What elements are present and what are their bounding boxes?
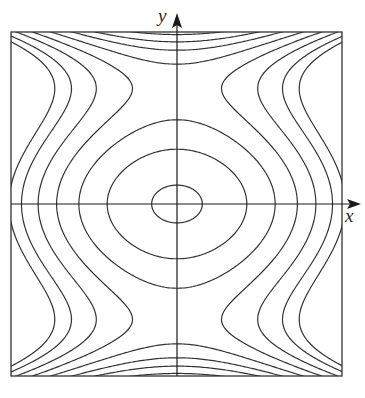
y-axis-label: y xyxy=(158,6,166,25)
contour-plot xyxy=(0,0,365,398)
x-axis-label: x xyxy=(345,206,353,225)
